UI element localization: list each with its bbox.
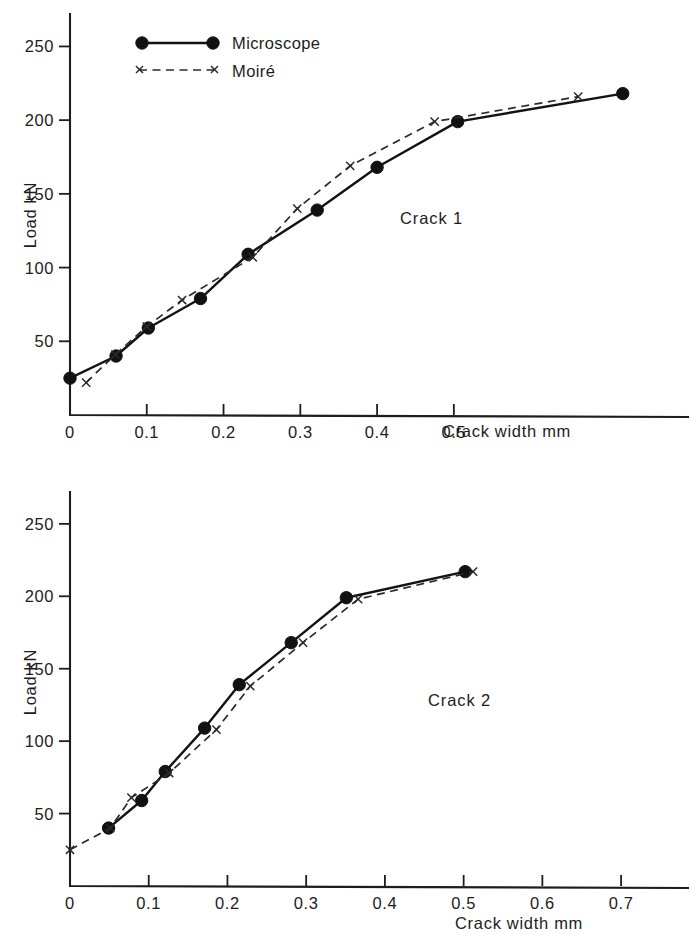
circle-marker [371,161,383,173]
y-tick-label: 200 [25,111,54,129]
legend-circle-marker-left [136,37,148,49]
circle-marker [285,636,297,648]
x-tick-label: 0.3 [294,894,319,912]
x-marker [212,725,220,733]
x-tick-label: 0.5 [451,894,476,912]
series-group-crack-1 [64,87,629,386]
circle-marker [198,722,210,734]
x-marker [178,296,186,304]
x-marker [127,794,135,802]
x-tick-label: 0.2 [215,894,240,912]
x-tick-label: 0.3 [288,423,313,441]
series-group-crack-2 [66,565,477,853]
y-tick-label: 50 [34,805,54,823]
x-ticks-crack-2: 00.10.20.30.40.50.60.7 [65,875,633,912]
series-line-moir [86,97,578,383]
x-marker [299,639,307,647]
legend-crack-1: Microscope Moiré [136,34,321,80]
axis-lines [70,492,688,888]
circle-marker [340,592,352,604]
x-tick-label: 0.4 [365,423,390,441]
x-marker [82,378,90,386]
y-tick-label: 200 [25,587,54,605]
series-line-microscope [70,94,623,379]
x-tick-label: 0.6 [530,894,555,912]
x-tick-label: 0.2 [211,423,236,441]
circle-marker [311,204,323,216]
axes-crack-1 [70,14,688,417]
x-marker [346,162,354,170]
circle-marker [194,292,206,304]
y-tick-label: 50 [34,332,54,350]
circle-marker [242,248,254,260]
circle-marker [233,678,245,690]
x-tick-label: 0 [65,894,75,912]
chart-crack-2-svg: 50100150200250 00.10.20.30.40.50.60.7 Cr… [0,460,690,934]
axis-lines [70,14,688,417]
chart-crack-1-svg: 50100150200250 00.10.20.30.40.5 Microsco… [0,0,690,460]
circle-marker [135,794,147,806]
circle-marker [617,87,629,99]
x-tick-label: 0.1 [136,894,161,912]
x-marker [431,118,439,126]
x-tick-label: 0.4 [373,894,398,912]
y-tick-label: 100 [25,259,54,277]
legend-circle-marker-right [207,37,219,49]
circle-marker [64,372,76,384]
figure-root: 50100150200250 00.10.20.30.40.5 Microsco… [0,0,690,934]
y-axis-title-crack-1: Load kN [21,182,39,248]
x-axis-title-crack-2: Crack width mm [455,914,583,932]
y-tick-label: 250 [25,515,54,533]
x-marker [293,205,301,213]
legend-label-microscope: Microscope [232,34,320,52]
x-ticks-crack-1: 00.10.20.30.40.5 [65,404,466,441]
y-tick-label: 100 [25,732,54,750]
x-tick-label: 0.1 [134,423,159,441]
legend-label-moire: Moiré [232,62,275,80]
x-tick-label: 0.7 [609,894,634,912]
y-axis-title-crack-2: Load kN [21,649,39,715]
series-line-microscope [109,572,466,828]
annotation-crack-2: Crack 2 [428,691,491,709]
axes-crack-2 [70,492,688,888]
x-marker [246,682,254,690]
chart-panel-crack-1: 50100150200250 00.10.20.30.40.5 Microsco… [0,0,690,460]
annotation-crack-1: Crack 1 [400,209,463,227]
chart-panel-crack-2: 50100150200250 00.10.20.30.40.50.60.7 Cr… [0,460,690,934]
series-line-moir [70,572,473,850]
x-axis-title-crack-1: Crack width mm [443,422,571,440]
y-tick-label: 250 [25,37,54,55]
x-tick-label: 0 [65,423,75,441]
